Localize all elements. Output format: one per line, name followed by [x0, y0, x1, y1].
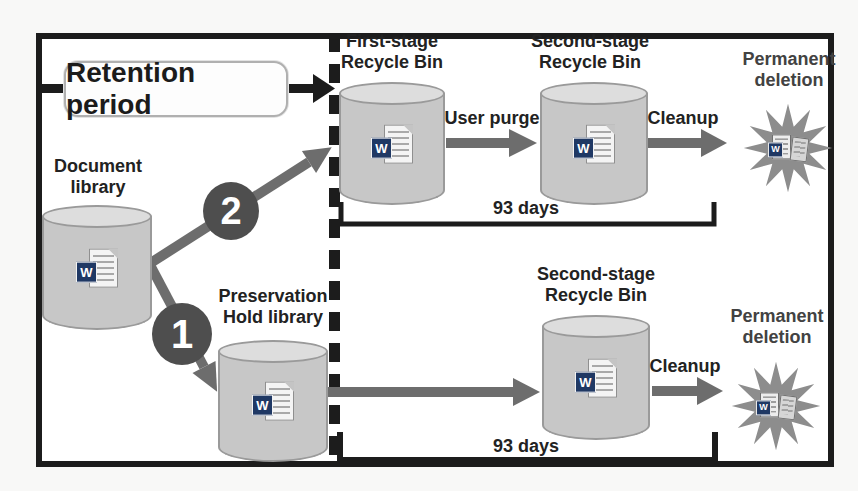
path-1-badge: 1 [152, 303, 212, 365]
retention-period-label: Retention period [66, 57, 286, 121]
cylinder-top [542, 315, 650, 338]
cylinder-top [42, 205, 152, 228]
retention-inflow-line [36, 84, 66, 93]
duration-top-label: 93 days [480, 198, 572, 219]
word-logo-icon: W [575, 371, 596, 392]
cylinder-top [540, 82, 648, 105]
second-stage-recycle-bin-top-label: Second-stage Recycle Bin [526, 31, 654, 73]
path-2-badge: 2 [203, 182, 259, 240]
cleanup-bottom-label: Cleanup [641, 356, 729, 377]
retention-diagram: Retention period Document library W 2 1 … [0, 0, 858, 491]
preservation-flow-arrow-head [513, 378, 540, 406]
permanent-deletion-top-starburst: W [738, 96, 838, 200]
preservation-flow-arrow-shaft [320, 387, 514, 397]
deleted-documents-icon: W [756, 390, 796, 420]
second-stage-recycle-bin-bottom-label: Second-stage Recycle Bin [532, 264, 660, 306]
first-stage-recycle-bin-cylinder: W [339, 82, 445, 205]
retention-arrow-head [313, 74, 335, 103]
permanent-deletion-bottom-starburst: W [726, 354, 826, 458]
word-document-icon: W [249, 382, 297, 426]
word-logo-icon: W [573, 137, 594, 158]
user-purge-arrow-shaft [446, 138, 510, 148]
cleanup-top-arrow-shaft [648, 138, 702, 148]
cylinder-top [339, 82, 445, 105]
word-logo-icon: W [768, 142, 783, 157]
path-1-number: 1 [171, 312, 193, 357]
user-purge-arrow-head [509, 129, 537, 157]
word-logo-icon: W [252, 395, 273, 416]
user-purge-label: User purge [438, 108, 546, 129]
first-stage-recycle-bin-label: First-stage Recycle Bin [328, 31, 456, 73]
cleanup-top-arrow-head [701, 129, 727, 157]
word-document-icon: W [572, 358, 620, 402]
document-library-label: Document library [40, 156, 156, 198]
retention-arrow-shaft [288, 84, 314, 93]
document-page-icon: W [760, 392, 779, 417]
deleted-documents-icon: W [768, 132, 808, 162]
cleanup-top-label: Cleanup [639, 108, 727, 129]
second-stage-recycle-bin-bottom-cylinder: W [542, 315, 650, 440]
retention-period-box: Retention period [64, 61, 288, 117]
document-library-cylinder: W [42, 205, 152, 330]
word-logo-icon: W [76, 261, 97, 282]
permanent-deletion-top-label: Permanent deletion [731, 49, 847, 91]
document-page-icon: W [772, 134, 791, 159]
second-stage-recycle-bin-top-cylinder: W [540, 82, 648, 205]
word-document-icon: W [368, 124, 416, 168]
document-page-icon [778, 394, 798, 420]
word-document-icon: W [73, 248, 121, 292]
permanent-deletion-bottom-label: Permanent deletion [719, 306, 835, 348]
cleanup-bottom-arrow-head [697, 377, 723, 405]
word-logo-icon: W [756, 400, 771, 415]
duration-bottom-label: 93 days [480, 436, 572, 457]
document-page-icon [790, 136, 810, 162]
preservation-hold-library-cylinder: W [218, 340, 328, 462]
preservation-hold-library-label: Preservation Hold library [210, 286, 336, 328]
cylinder-top [218, 340, 328, 363]
cleanup-bottom-arrow-shaft [652, 386, 698, 396]
path-2-number: 2 [220, 190, 241, 233]
word-logo-icon: W [371, 137, 392, 158]
word-document-icon: W [570, 124, 618, 168]
